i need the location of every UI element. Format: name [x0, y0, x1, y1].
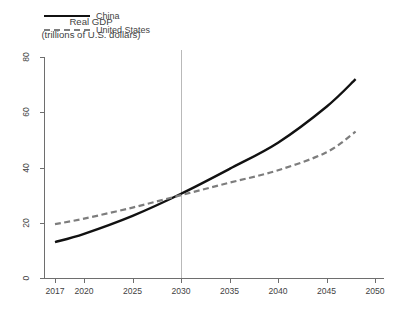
- y-tick-label: 20: [20, 212, 32, 234]
- series-layer: [44, 50, 384, 282]
- x-tick-label: 2050: [355, 286, 394, 296]
- gdp-projection-figure: 2017-2050 Real GDP (trillions of U.S. do…: [0, 0, 394, 314]
- legend-label-united-states: United States: [96, 25, 150, 35]
- x-tick-label: 2045: [307, 286, 347, 296]
- series-line-united-states: [55, 132, 356, 225]
- y-tick-label: 0: [20, 267, 32, 289]
- x-tick-label: 2040: [258, 286, 298, 296]
- y-tick-label: 80: [20, 46, 32, 68]
- figure-title: 2017-2050: [0, 0, 394, 2]
- x-tick-label: 2035: [210, 286, 250, 296]
- x-tick-label: 2030: [161, 286, 201, 296]
- x-tick-label: 2020: [64, 286, 104, 296]
- legend-swatch-solid-line-icon: [44, 11, 90, 21]
- chart-legend: China United States: [44, 9, 150, 37]
- plot-area: 020406080 201720202025203020352040204520…: [44, 50, 384, 282]
- legend-item-china: China: [44, 9, 150, 23]
- y-tick-label: 60: [20, 101, 32, 123]
- y-tick-label: 40: [20, 157, 32, 179]
- x-tick-label: 2025: [113, 286, 153, 296]
- legend-swatch-dashed-line-icon: [44, 25, 90, 35]
- legend-label-china: China: [96, 11, 120, 21]
- series-line-china: [55, 79, 356, 242]
- legend-item-united-states: United States: [44, 23, 150, 37]
